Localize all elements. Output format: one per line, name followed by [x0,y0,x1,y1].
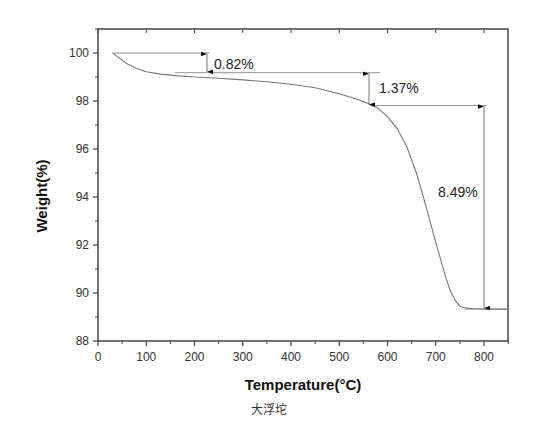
x-tick-label: 600 [377,350,397,364]
figure-caption: 大浮坨 [0,400,537,417]
x-tick-label: 200 [184,350,204,364]
annotation-label: 8.49% [438,184,478,200]
y-tick-label: 94 [76,190,90,204]
y-tick-label: 92 [76,238,90,252]
x-tick-label: 100 [136,350,156,364]
x-tick-label: 700 [426,350,446,364]
x-tick-label: 0 [95,350,102,364]
annotations: 0.82%1.37%8.49% [113,53,506,309]
y-tick-label: 98 [76,94,90,108]
y-tick-label: 100 [69,46,89,60]
y-axis-title: Weight(%) [33,159,50,232]
y-tick-label: 90 [76,286,90,300]
y-tick-label: 96 [76,142,90,156]
x-tick-label: 400 [281,350,301,364]
x-axis-title: Temperature(°C) [245,376,362,393]
annotation-label: 1.37% [379,80,419,96]
tga-curve [113,53,509,309]
annotation-label: 0.82% [214,56,254,72]
x-tick-label: 300 [233,350,253,364]
y-tick-label: 88 [76,334,90,348]
x-tick-label: 800 [474,350,494,364]
tga-chart: 0100200300400500600700800889092949698100… [0,0,537,430]
data-series [113,53,509,309]
x-tick-label: 500 [329,350,349,364]
